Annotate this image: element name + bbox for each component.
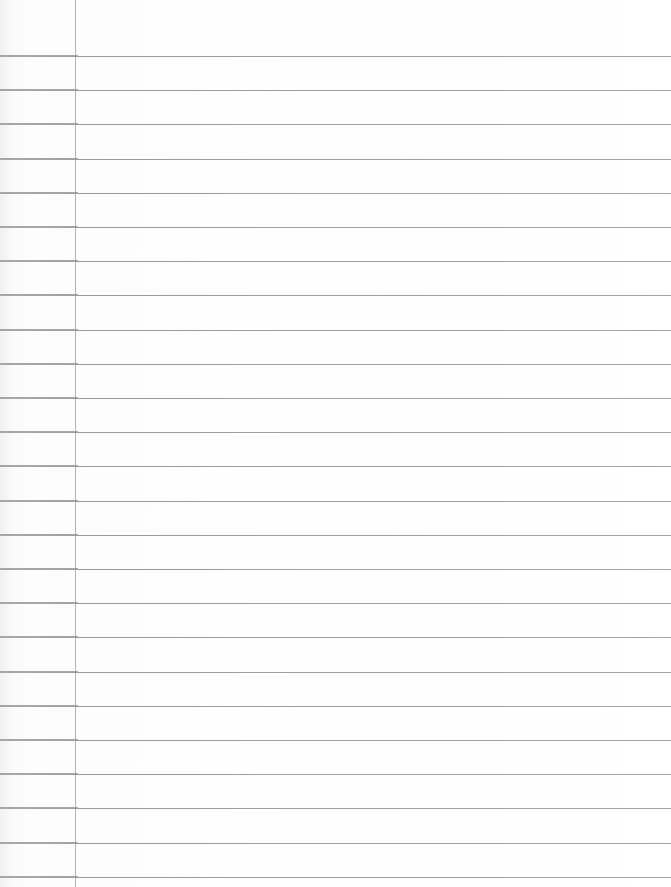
- ruled-line-margin-segment: [0, 807, 78, 808]
- ruled-line: [0, 398, 671, 399]
- ruled-line-margin-segment: [0, 363, 78, 364]
- ruled-line-margin-segment: [0, 636, 78, 637]
- ruled-line-margin-segment: [0, 329, 78, 330]
- ruled-line: [0, 227, 671, 228]
- ruled-line: [0, 295, 671, 296]
- ruled-line-margin-segment: [0, 465, 78, 466]
- ruled-line: [0, 159, 671, 160]
- ruled-line-margin-segment: [0, 260, 78, 261]
- ruled-line: [0, 193, 671, 194]
- ruled-line-margin-segment: [0, 89, 78, 90]
- ruled-line: [0, 364, 671, 365]
- ruled-line: [0, 56, 671, 57]
- ruled-line: [0, 603, 671, 604]
- ruled-line: [0, 432, 671, 433]
- ruled-line: [0, 740, 671, 741]
- ruled-line: [0, 124, 671, 125]
- ruled-line: [0, 843, 671, 844]
- ruled-line-margin-segment: [0, 55, 78, 56]
- ruled-line-margin-segment: [0, 773, 78, 774]
- ruled-line-margin-segment: [0, 294, 78, 295]
- ruled-line: [0, 569, 671, 570]
- ruled-line-margin-segment: [0, 739, 78, 740]
- ruled-line: [0, 706, 671, 707]
- ruled-line-margin-segment: [0, 534, 78, 535]
- ruled-line-margin-segment: [0, 431, 78, 432]
- ruled-line-margin-segment: [0, 123, 78, 124]
- ruled-line-margin-segment: [0, 192, 78, 193]
- ruled-line: [0, 774, 671, 775]
- ruled-line-margin-segment: [0, 500, 78, 501]
- ruled-line-margin-segment: [0, 397, 78, 398]
- ruled-line: [0, 330, 671, 331]
- ruled-line: [0, 466, 671, 467]
- ruled-line: [0, 261, 671, 262]
- ruled-line: [0, 808, 671, 809]
- margin-line: [75, 0, 76, 887]
- ruled-line-margin-segment: [0, 876, 78, 877]
- ruled-line-margin-segment: [0, 602, 78, 603]
- ruled-line: [0, 535, 671, 536]
- ruled-line-margin-segment: [0, 568, 78, 569]
- ruled-line: [0, 877, 671, 878]
- ruled-line: [0, 672, 671, 673]
- ruled-line-margin-segment: [0, 671, 78, 672]
- ruled-line-margin-segment: [0, 842, 78, 843]
- ruled-line-margin-segment: [0, 226, 78, 227]
- ruled-line-margin-segment: [0, 158, 78, 159]
- ruled-line-margin-segment: [0, 705, 78, 706]
- ruled-line: [0, 90, 671, 91]
- ruled-line: [0, 637, 671, 638]
- ruled-line: [0, 501, 671, 502]
- lined-paper: [0, 0, 671, 887]
